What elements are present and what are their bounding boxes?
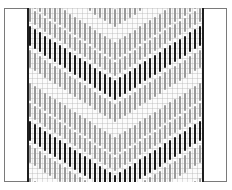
dark-stitch — [59, 45, 61, 65]
light-stitch — [109, 39, 111, 57]
dark-stitch — [164, 143, 166, 163]
light-stitch — [144, 180, 146, 182]
light-stitch — [74, 17, 76, 35]
dark-stitch — [164, 48, 166, 68]
light-stitch — [34, 106, 36, 120]
dark-stitch — [129, 71, 131, 91]
light-stitch — [94, 50, 96, 64]
light-stitch — [49, 21, 51, 35]
light-stitch — [189, 151, 191, 169]
light-stitch — [39, 56, 41, 74]
dark-stitch — [124, 169, 126, 182]
light-stitch — [169, 8, 171, 25]
light-stitch — [69, 171, 71, 182]
dark-stitch — [189, 127, 191, 147]
light-stitch — [114, 157, 116, 171]
light-stitch — [89, 46, 91, 60]
light-stitch — [69, 76, 71, 94]
light-stitch — [89, 8, 91, 11]
light-stitch — [59, 102, 61, 120]
light-stitch — [49, 96, 51, 114]
light-stitch — [154, 132, 156, 146]
light-stitch — [54, 119, 56, 133]
light-stitch — [109, 154, 111, 168]
light-stitch — [139, 26, 141, 44]
dark-stitch — [49, 39, 51, 59]
dark-stitch — [194, 124, 196, 144]
light-stitch — [174, 161, 176, 179]
light-stitch — [54, 161, 56, 179]
light-stitch — [39, 14, 41, 28]
light-stitch — [79, 177, 81, 182]
light-stitch — [109, 134, 111, 152]
light-stitch — [54, 99, 56, 117]
dark-stitch — [39, 127, 41, 147]
light-stitch — [44, 155, 46, 173]
light-stitch — [169, 102, 171, 120]
light-stitch — [99, 33, 101, 51]
light-stitch — [189, 56, 191, 74]
light-stitch — [54, 8, 56, 22]
light-stitch — [174, 119, 176, 133]
light-stitch — [89, 121, 91, 139]
light-stitch — [94, 145, 96, 159]
dark-stitch — [114, 80, 116, 100]
light-stitch — [109, 59, 111, 73]
light-stitch — [114, 137, 116, 155]
dark-stitch — [79, 58, 81, 78]
dark-stitch — [149, 153, 151, 173]
stitch-chart-grid — [27, 8, 204, 182]
dark-stitch — [194, 29, 196, 49]
dark-stitch — [44, 36, 46, 56]
light-stitch — [79, 20, 81, 38]
light-stitch — [194, 148, 196, 166]
dark-stitch — [199, 121, 201, 141]
dark-stitch — [99, 71, 101, 91]
dark-stitch — [89, 159, 91, 179]
light-stitch — [164, 125, 166, 139]
light-stitch — [114, 104, 116, 122]
light-stitch — [64, 125, 66, 139]
light-stitch — [99, 95, 101, 113]
light-stitch — [79, 40, 81, 54]
light-stitch — [94, 125, 96, 143]
dark-stitch — [79, 153, 81, 173]
dark-stitch — [114, 175, 116, 182]
light-stitch — [104, 56, 106, 70]
light-stitch — [149, 115, 151, 133]
dark-stitch — [154, 55, 156, 75]
dark-stitch — [109, 77, 111, 97]
light-stitch — [194, 11, 196, 25]
dark-stitch — [29, 121, 31, 141]
light-stitch — [44, 93, 46, 111]
dark-stitch — [174, 42, 176, 62]
light-stitch — [94, 30, 96, 48]
left-border-line — [27, 8, 29, 182]
light-stitch — [119, 154, 121, 168]
light-stitch — [159, 76, 161, 94]
dark-stitch — [154, 150, 156, 170]
light-stitch — [129, 148, 131, 162]
light-stitch — [149, 177, 151, 182]
dark-stitch — [109, 172, 111, 182]
light-stitch — [124, 36, 126, 54]
light-stitch — [184, 93, 186, 111]
light-stitch — [49, 116, 51, 130]
light-stitch — [144, 118, 146, 136]
light-stitch — [194, 8, 196, 9]
light-stitch — [74, 132, 76, 146]
light-stitch — [199, 145, 201, 163]
light-stitch — [99, 53, 101, 67]
light-stitch — [194, 181, 196, 182]
dark-stitch — [159, 147, 161, 167]
dark-stitch — [29, 26, 31, 46]
light-stitch — [179, 96, 181, 114]
light-stitch — [64, 72, 66, 90]
light-stitch — [109, 8, 111, 24]
light-stitch — [189, 8, 191, 12]
light-stitch — [149, 135, 151, 149]
dark-stitch — [64, 143, 66, 163]
light-stitch — [34, 181, 36, 182]
light-stitch — [169, 164, 171, 182]
dark-stitch — [124, 74, 126, 94]
